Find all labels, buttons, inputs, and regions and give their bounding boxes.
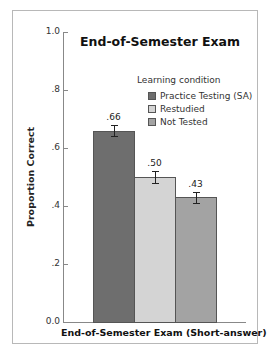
- y-tick: [63, 148, 68, 149]
- y-tick-label: 1.0: [36, 26, 60, 36]
- legend-swatch-icon: [148, 105, 156, 113]
- y-tick: [63, 32, 68, 33]
- value-label: .50: [140, 158, 170, 168]
- bar: [175, 197, 217, 323]
- error-bar-cap: [152, 171, 159, 172]
- y-tick-label: .8: [36, 84, 60, 94]
- y-tick: [63, 264, 68, 265]
- x-axis-label: End-of-Semester Exam (Short-answer): [61, 327, 267, 338]
- chart-title: End-of-Semester Exam: [80, 34, 240, 49]
- error-bar-cap: [111, 136, 118, 137]
- y-tick-label: 0.0: [36, 316, 60, 326]
- value-label: .66: [99, 112, 129, 122]
- y-axis: [63, 32, 64, 322]
- legend-label: Practice Testing (SA): [160, 91, 252, 101]
- bar: [93, 131, 135, 323]
- error-bar: [155, 171, 156, 183]
- value-label: .43: [181, 179, 211, 189]
- error-bar: [196, 192, 197, 204]
- error-bar-cap: [193, 192, 200, 193]
- legend-item: Restudied: [148, 104, 205, 114]
- bar: [134, 177, 176, 323]
- legend-item: Practice Testing (SA): [148, 91, 252, 101]
- y-tick-label: .2: [36, 258, 60, 268]
- legend-swatch-icon: [148, 118, 156, 126]
- error-bar: [114, 125, 115, 137]
- y-tick: [63, 90, 68, 91]
- legend-swatch-icon: [148, 92, 156, 100]
- y-tick-label: .6: [36, 142, 60, 152]
- legend-title: Learning condition: [137, 75, 221, 85]
- error-bar-cap: [111, 125, 118, 126]
- error-bar-cap: [152, 183, 159, 184]
- legend-item: Not Tested: [148, 117, 208, 127]
- legend-label: Restudied: [160, 104, 205, 114]
- y-tick: [63, 206, 68, 207]
- y-tick-label: .4: [36, 200, 60, 210]
- error-bar-cap: [193, 203, 200, 204]
- y-axis-label: Proportion Correct: [25, 127, 36, 227]
- legend-label: Not Tested: [160, 117, 208, 127]
